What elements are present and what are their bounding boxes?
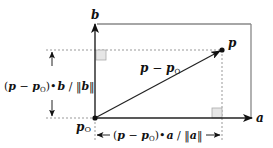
origin-label: pO bbox=[76, 120, 91, 134]
point-p bbox=[219, 47, 224, 52]
origin-point bbox=[92, 115, 97, 120]
right-angle-marker-b bbox=[96, 50, 106, 60]
origin-label-subscript: O bbox=[84, 125, 91, 134]
right-angle-marker-a bbox=[212, 108, 222, 118]
point-p-label: p bbox=[228, 36, 237, 50]
a-projection-formula: (p − pO)•a / ‖a‖ bbox=[113, 129, 202, 143]
projection-diagram: b a p pO p − pO (p − pO)•b / ‖b‖ (p − pO… bbox=[0, 0, 273, 148]
b-axis-label: b bbox=[91, 8, 99, 22]
a-axis-label: a bbox=[256, 111, 264, 125]
b-projection-formula: (p − pO)•b / ‖b‖ bbox=[4, 80, 95, 94]
vector-label: p − pO bbox=[140, 61, 180, 76]
